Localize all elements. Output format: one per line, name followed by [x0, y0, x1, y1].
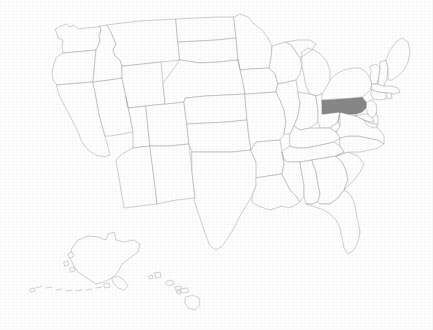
state-ND[interactable]: [176, 17, 236, 42]
hawaii-niihau: [149, 275, 153, 279]
state-KS[interactable]: [184, 94, 247, 124]
state-WY[interactable]: [122, 62, 165, 108]
state-SD[interactable]: [178, 38, 238, 63]
state-OK[interactable]: [187, 120, 251, 152]
alaska-island-3: [70, 267, 75, 272]
state-AR[interactable]: [251, 140, 284, 178]
hawaii-lanai[interactable]: [177, 291, 181, 294]
state-CO[interactable]: [146, 102, 189, 146]
us-map-container: [0, 0, 433, 330]
state-NM[interactable]: [150, 144, 195, 204]
aleutian-island-a: [30, 288, 35, 292]
hawaii-kauai[interactable]: [155, 272, 161, 278]
alaska-island-2: [64, 261, 69, 266]
aleutian-island-b: [104, 283, 110, 288]
us-state-map: [0, 0, 433, 330]
